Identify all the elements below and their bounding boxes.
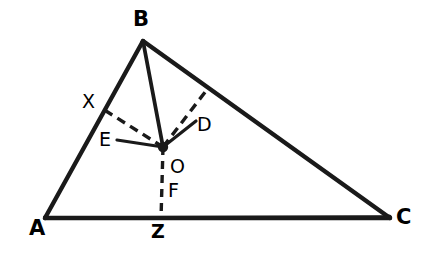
- cevian-A-to-C-through-O: [45, 217, 390, 218]
- point-label-F: F: [168, 181, 179, 200]
- point-label-A: A: [29, 218, 45, 239]
- point-O-marker: [158, 142, 168, 152]
- dashed-perpendiculars: [106, 87, 209, 219]
- point-label-D: D: [197, 115, 212, 134]
- leader-O-to-D-label: [163, 121, 196, 147]
- point-label-Z: Z: [151, 222, 165, 241]
- point-label-O: O: [170, 157, 185, 176]
- geometry-canvas: [0, 0, 426, 265]
- point-label-B: B: [133, 9, 149, 30]
- point-label-X: X: [82, 92, 95, 111]
- triangle-outline: [45, 41, 390, 218]
- point-label-E: E: [99, 130, 111, 149]
- intersection-point-O: [158, 142, 168, 152]
- geometry-figure: A B C X D E O F Z: [0, 0, 426, 265]
- cevian-B-to-Z: [143, 41, 163, 147]
- cevian-lines: [45, 41, 390, 218]
- perpendicular-O-to-Z-on-AC: [161, 147, 163, 219]
- side-AB: [45, 41, 143, 218]
- point-label-C: C: [396, 207, 411, 228]
- side-BC: [143, 41, 390, 218]
